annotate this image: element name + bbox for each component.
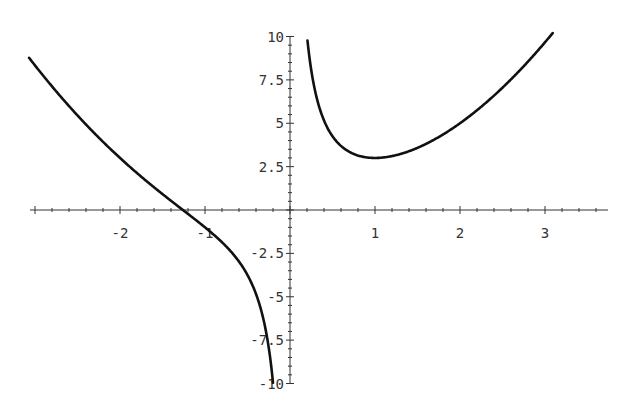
- x-tick-label: 3: [541, 225, 549, 241]
- y-tick-label: -5: [267, 289, 284, 305]
- curve-left-branch: [29, 58, 273, 383]
- y-tick-label: 10: [267, 29, 284, 45]
- axes: [30, 37, 608, 384]
- x-tick-label: 2: [456, 225, 464, 241]
- function-plot: -2-1123107.552.5-2.5-5-7.5-10: [0, 0, 623, 419]
- y-tick-label: 7.5: [259, 72, 284, 88]
- y-tick-label: 5: [276, 115, 284, 131]
- x-tick-label: 1: [371, 225, 379, 241]
- curves: [29, 33, 553, 383]
- y-tick-label: -2.5: [250, 245, 284, 261]
- x-tick-label: -2: [112, 225, 129, 241]
- curve-right-branch: [307, 33, 552, 158]
- y-tick-label: 2.5: [259, 159, 284, 175]
